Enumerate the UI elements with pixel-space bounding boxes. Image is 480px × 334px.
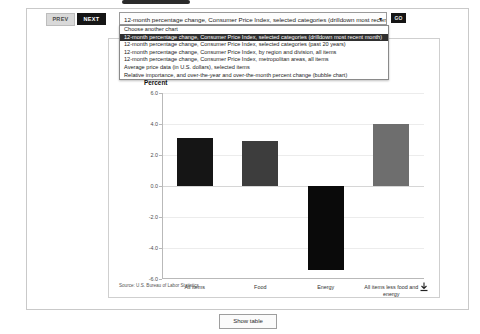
zero-line (163, 186, 424, 187)
gridline (163, 217, 424, 218)
y-tick-mark (159, 217, 162, 218)
bar[interactable] (242, 141, 278, 186)
x-tick-label: Food (227, 284, 293, 291)
y-tick-label: -2.0 (149, 214, 158, 220)
bar[interactable] (177, 138, 213, 186)
y-tick-mark (159, 248, 162, 249)
bar[interactable] (308, 186, 344, 270)
download-icon[interactable] (418, 279, 430, 291)
x-axis-line (162, 278, 424, 279)
dropdown-option[interactable]: Average price data (in U.S. dollars), se… (120, 64, 388, 72)
chart-select-value: 12-month percentage change, Consumer Pri… (124, 16, 387, 23)
x-tick-label: All items less food and energy (358, 284, 424, 297)
chart-select-dropdown[interactable]: Choose another chart12-month percentage … (119, 25, 389, 80)
chart-select[interactable]: 12-month percentage change, Consumer Pri… (119, 12, 387, 25)
y-tick-label: -6.0 (149, 276, 158, 282)
cut-off-top-bar (122, 0, 190, 4)
dropdown-option[interactable]: 12-month percentage change, Consumer Pri… (120, 49, 388, 57)
y-tick-mark (159, 279, 162, 280)
next-button[interactable]: NEXT (77, 13, 106, 25)
gridline (163, 93, 424, 94)
gridline (163, 248, 424, 249)
chevron-down-icon: ▾ (379, 13, 382, 25)
dropdown-option[interactable]: 12-month percentage change, Consumer Pri… (120, 41, 388, 49)
y-tick-mark (159, 124, 162, 125)
dropdown-option[interactable]: 12-month percentage change, Consumer Pri… (120, 56, 388, 64)
go-button[interactable]: GO (391, 13, 406, 23)
chart-page-frame: PREV NEXT 12-month percentage change, Co… (26, 8, 469, 310)
dropdown-option[interactable]: 12-month percentage change, Consumer Pri… (120, 34, 388, 42)
y-tick-label: 6.0 (151, 90, 159, 96)
x-tick-label: Energy (293, 284, 359, 291)
y-tick-mark (159, 155, 162, 156)
bar[interactable] (373, 124, 409, 186)
dropdown-option[interactable]: Relative importance, and over-the-year a… (120, 72, 388, 80)
y-tick-label: 4.0 (151, 121, 159, 127)
y-tick-label: 2.0 (151, 152, 159, 158)
y-tick-mark (159, 93, 162, 94)
show-table-button[interactable]: Show table (219, 314, 277, 329)
source-note: Source: U.S. Bureau of Labor Statistics (119, 283, 199, 288)
y-tick-label: -4.0 (149, 245, 158, 251)
y-tick-mark (159, 186, 162, 187)
prev-button[interactable]: PREV (46, 13, 75, 26)
plot-area: 6.04.02.00.0-2.0-4.0-6.0All itemsFoodEne… (162, 93, 424, 279)
dropdown-option[interactable]: Choose another chart (120, 26, 388, 34)
y-tick-label: 0.0 (151, 183, 159, 189)
